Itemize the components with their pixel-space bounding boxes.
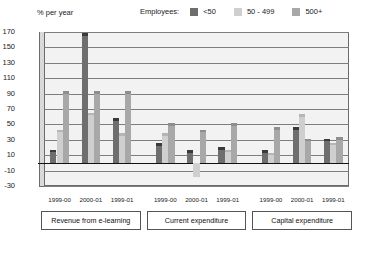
x-axis-labels: 1999-002000-011999-011999-002000-011999-… — [0, 196, 367, 208]
y-tick-label: 70 — [0, 105, 15, 113]
category-box: Current expenditure — [147, 211, 247, 230]
bar-chart: % per year Employees: <50 50 - 499 500+ … — [0, 0, 367, 258]
bar-top-face — [168, 123, 174, 126]
bar-top-face — [231, 123, 237, 126]
y-tick-label: 10 — [0, 151, 15, 159]
bar-face — [336, 140, 342, 163]
bar-face — [94, 94, 100, 163]
y-tick-label: -10 — [0, 167, 15, 175]
bar-face — [193, 163, 199, 177]
y-tick-label: 130 — [0, 59, 15, 67]
bar-face — [125, 94, 131, 163]
y-tick-label: -30 — [0, 182, 15, 190]
y-tick-label: 30 — [0, 136, 15, 144]
category-boxes: Revenue from e-learningCurrent expenditu… — [0, 211, 367, 233]
bar-face — [168, 126, 174, 163]
bar-top-face — [200, 130, 206, 133]
x-tick-label: 1999-00 — [255, 196, 286, 203]
bar-face — [187, 153, 193, 163]
legend-swatch-50-499 — [234, 8, 242, 16]
y-tick-label: 90 — [0, 90, 15, 98]
plot-area — [44, 32, 349, 186]
legend-item-500plus: 500+ — [292, 7, 322, 16]
gridline — [44, 186, 349, 187]
bar — [305, 141, 311, 163]
x-tick-label: 1999-01 — [106, 196, 137, 203]
bar-face — [231, 126, 237, 163]
y-tick-label: 110 — [0, 74, 15, 82]
unit-label: % per year — [37, 8, 73, 17]
x-tick-label: 2000-01 — [181, 196, 212, 203]
legend-label-lt50: <50 — [203, 7, 216, 16]
legend-label-500plus: 500+ — [305, 7, 322, 16]
category-box: Capital expenditure — [252, 211, 352, 230]
bar-face — [274, 130, 280, 163]
bar — [187, 153, 193, 163]
x-tick-label: 2000-01 — [75, 196, 106, 203]
bar-top-face — [187, 150, 193, 153]
bar — [125, 94, 131, 163]
bar-top-face — [305, 139, 311, 142]
y-tick-label: 170 — [0, 28, 15, 36]
legend-swatch-500plus — [292, 8, 300, 16]
bar — [231, 126, 237, 163]
legend-label-50-499: 50 - 499 — [247, 7, 275, 16]
legend-item-50-499: 50 - 499 — [234, 7, 275, 16]
bar — [274, 130, 280, 163]
bar — [193, 163, 199, 177]
bar-top-face — [82, 33, 88, 36]
bar-top-face — [274, 127, 280, 130]
legend-item-lt50: <50 — [190, 7, 216, 16]
bar — [94, 94, 100, 163]
legend-swatch-lt50 — [190, 8, 198, 16]
bar — [63, 94, 69, 163]
bar-top-face — [113, 118, 119, 121]
bar-face — [305, 141, 311, 163]
bar-top-face — [94, 91, 100, 94]
bar-face — [63, 94, 69, 163]
x-tick-label: 1999-00 — [150, 196, 181, 203]
bar-top-face — [324, 139, 330, 142]
legend: Employees: <50 50 - 499 500+ — [140, 7, 322, 16]
bar-top-face — [63, 91, 69, 94]
bar-top-face — [336, 137, 342, 140]
bar — [168, 126, 174, 163]
bar-top-face — [299, 114, 305, 117]
bar-top-face — [125, 91, 131, 94]
bar-face — [200, 132, 206, 163]
legend-title: Employees: — [140, 7, 179, 16]
bars-layer — [44, 32, 349, 186]
y-tick-label: 50 — [0, 120, 15, 128]
x-tick-label: 1999-00 — [44, 196, 75, 203]
bar — [336, 140, 342, 163]
bar — [200, 132, 206, 163]
x-tick-label: 2000-01 — [287, 196, 318, 203]
x-tick-label: 1999-01 — [212, 196, 243, 203]
y-tick-label: 150 — [0, 43, 15, 51]
x-tick-label: 1999-01 — [318, 196, 349, 203]
category-box: Revenue from e-learning — [41, 211, 141, 230]
